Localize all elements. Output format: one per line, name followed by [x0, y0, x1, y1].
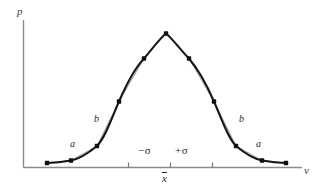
x-axis-label: v: [304, 165, 309, 176]
annotation-a-right: a: [256, 139, 261, 149]
chord-polyline: [47, 34, 286, 164]
gaussian-distribution-figure: p v a b b a −σ +σ x: [0, 0, 323, 192]
data-point-marker: [69, 158, 73, 162]
data-point-marker: [234, 144, 238, 148]
x-tick-label-mean: x: [162, 172, 167, 184]
annotation-a-left: a: [70, 139, 75, 149]
data-point-marker: [95, 144, 99, 148]
data-point-marker: [164, 31, 168, 35]
fitted-gaussian-curve: [47, 34, 286, 164]
annotation-b-right: b: [239, 114, 244, 124]
data-point-marker: [260, 158, 264, 162]
data-point-marker: [284, 161, 288, 165]
data-point-marker: [45, 161, 49, 165]
y-axis-label: p: [17, 6, 23, 17]
data-point-marker: [142, 56, 146, 60]
data-point-marker: [187, 56, 191, 60]
data-point-marker: [117, 99, 121, 103]
data-point-markers: [45, 31, 288, 165]
x-tick-label-minus-sigma: −σ: [138, 145, 151, 156]
mean-symbol: x: [162, 172, 167, 184]
plot-canvas: [0, 0, 323, 192]
x-axis-ticks: [129, 163, 213, 168]
data-point-marker: [212, 99, 216, 103]
annotation-b-left: b: [94, 114, 99, 124]
x-tick-label-plus-sigma: +σ: [175, 145, 188, 156]
